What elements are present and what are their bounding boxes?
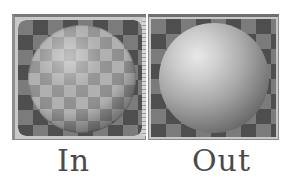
input-preview-viewport bbox=[18, 20, 142, 136]
output-label: Out bbox=[192, 143, 251, 178]
input-label: In bbox=[57, 143, 90, 178]
panel-divider bbox=[142, 18, 146, 136]
output-preview-viewport bbox=[151, 19, 276, 137]
input-sphere-image bbox=[28, 25, 136, 133]
output-sphere-image bbox=[159, 23, 269, 133]
output-preview-panel bbox=[148, 14, 279, 140]
input-preview-panel bbox=[12, 14, 146, 140]
